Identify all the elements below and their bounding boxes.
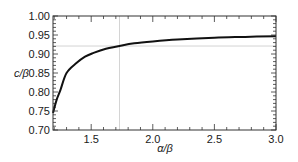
y-tick-label: 0.80	[29, 86, 50, 98]
y-tick-label: 0.95	[29, 29, 50, 41]
y-axis-label: c/β	[14, 67, 30, 79]
line-chart: 0.700.750.800.850.900.951.00 1.52.02.53.…	[0, 0, 298, 162]
y-tick-label: 0.90	[29, 48, 50, 60]
data-curve	[53, 36, 276, 113]
x-tick-label: 3.0	[268, 133, 283, 145]
x-axis-label: α/β	[157, 142, 173, 154]
x-tick-label: 2.5	[207, 133, 222, 145]
y-tick-label: 0.70	[29, 124, 50, 136]
x-tick-label: 1.5	[84, 133, 99, 145]
reference-lines	[53, 16, 276, 130]
y-tick-label: 0.75	[29, 105, 50, 117]
x-axis-ticks: 1.52.02.53.0	[54, 16, 283, 145]
y-tick-label: 0.85	[29, 67, 50, 79]
plot-frame	[53, 16, 276, 130]
y-tick-label: 1.00	[29, 10, 50, 22]
